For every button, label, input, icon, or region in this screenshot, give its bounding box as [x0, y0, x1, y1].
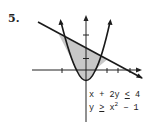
- inequality-2: y > x2 − 1: [89, 101, 139, 113]
- inequality-1: x + 2y < 4: [89, 90, 140, 100]
- parabola-left-arrow-icon: [59, 19, 64, 25]
- problem-figure: 5. x + 2y < 4 y > x2 − 1: [0, 0, 151, 134]
- parabola-right-arrow-icon: [108, 19, 113, 25]
- y-axis-arrow-icon: [84, 15, 89, 21]
- graph: [0, 0, 151, 134]
- x-axis-arrow-icon: [136, 68, 142, 73]
- line-arrow-icon: [136, 74, 143, 79]
